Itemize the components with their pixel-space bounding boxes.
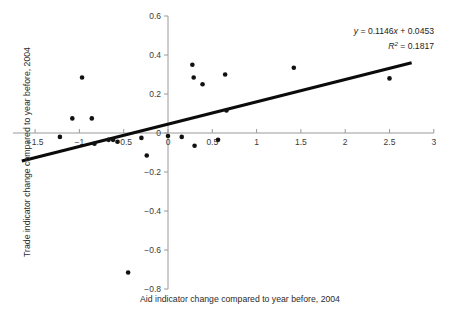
tick-labels-group: −1.5−1−0.500.511.522.53−0.8−0.6−0.4−0.20… [27,11,437,294]
data-point [126,270,131,275]
ticks-group [35,16,434,289]
y-tick-label: 0 [156,128,161,138]
r-squared-label: R2 = 0.1817 [388,40,434,51]
data-point [190,62,195,67]
y-tick-label: −0.2 [144,167,161,177]
x-tick-label: 2.5 [384,137,396,147]
y-tick-label: −0.8 [144,284,161,294]
x-tick-label: 1 [254,137,259,147]
x-tick-label: 1.5 [295,137,307,147]
data-point [387,76,392,81]
y-tick-label: −0.4 [144,206,161,216]
data-point [90,116,95,121]
y-tick-label: 0.2 [149,89,161,99]
data-point [106,138,111,143]
chart-canvas: −1.5−1−0.500.511.522.53−0.8−0.6−0.4−0.20… [0,0,457,309]
data-point [224,108,229,113]
x-tick-label: 2 [343,137,348,147]
data-point [58,135,63,140]
axes-group [13,16,434,289]
data-point [191,75,196,80]
data-point [292,65,297,70]
data-points-group [58,62,392,274]
data-point [70,116,75,121]
data-point [80,75,85,80]
x-axis-title: Aid indicator change compared to year be… [140,294,340,304]
x-tick-label: 0 [166,137,171,147]
x-tick-label: 3 [431,137,436,147]
y-tick-label: −0.6 [144,245,161,255]
data-point [115,139,120,144]
y-axis-title: Trade indicator change compared to year … [22,47,32,257]
data-point [166,134,171,139]
data-point [92,141,97,146]
y-tick-label: 0.4 [149,50,161,60]
data-point [192,143,197,148]
data-point [144,153,149,158]
data-point [200,82,205,87]
scatter-chart-figure: −1.5−1−0.500.511.522.53−0.8−0.6−0.4−0.20… [0,0,457,309]
data-point [179,135,184,140]
data-point [223,72,228,77]
regression-equation-label: y = 0.1146x + 0.0453 [353,26,434,36]
data-point [111,138,116,143]
y-tick-label: 0.6 [149,11,161,21]
data-point [216,138,221,143]
data-point [139,136,144,141]
